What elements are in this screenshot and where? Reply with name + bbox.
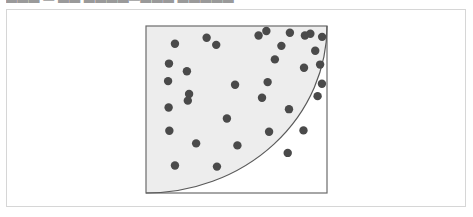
- scatter-point-inside-3: [183, 67, 191, 75]
- top-caption: ▬▬▬ — ▬▬ ▬▬▬▬—▬▬▬ ▬▬▬▬▬: [6, 0, 346, 5]
- scatter-point-outside-5: [318, 33, 326, 41]
- scatter-point-inside-2: [165, 59, 173, 67]
- scatter-point-outside-7: [301, 31, 309, 39]
- scatter-point-inside-9: [231, 81, 239, 89]
- scatter-point-outside-8: [286, 28, 294, 36]
- scatter-point-outside-0: [254, 31, 262, 39]
- scatter-point-inside-19: [171, 161, 179, 169]
- scatter-point-inside-18: [233, 141, 241, 149]
- scatter-point-inside-16: [265, 128, 273, 136]
- scatter-point-outside-4: [300, 64, 308, 72]
- quarter-circle-scatter-figure: [143, 23, 330, 196]
- scatter-point-outside-11: [313, 92, 321, 100]
- scatter-point-inside-1: [202, 33, 210, 41]
- scatter-point-inside-22: [299, 126, 307, 134]
- scatter-point-inside-0: [171, 40, 179, 48]
- scatter-point-inside-7: [164, 103, 172, 111]
- scatter-point-inside-10: [263, 78, 271, 86]
- scatter-point-inside-20: [213, 162, 221, 170]
- scatter-point-inside-14: [223, 114, 231, 122]
- scatter-point-inside-11: [258, 94, 266, 102]
- scatter-point-outside-10: [262, 27, 270, 35]
- figure-container: [143, 23, 330, 196]
- scatter-point-inside-21: [284, 149, 292, 157]
- scatter-point-inside-8: [184, 96, 192, 104]
- scatter-point-outside-9: [318, 80, 326, 88]
- figure-panel: [6, 9, 466, 207]
- scatter-point-inside-6: [164, 77, 172, 85]
- scatter-point-inside-12: [271, 55, 279, 63]
- scatter-point-outside-6: [316, 60, 324, 68]
- scatter-point-outside-3: [311, 47, 319, 55]
- scatter-point-inside-15: [192, 139, 200, 147]
- scatter-point-outside-1: [277, 42, 285, 50]
- scatter-point-inside-17: [285, 105, 293, 113]
- scatter-point-inside-13: [165, 127, 173, 135]
- scatter-point-inside-4: [212, 41, 220, 49]
